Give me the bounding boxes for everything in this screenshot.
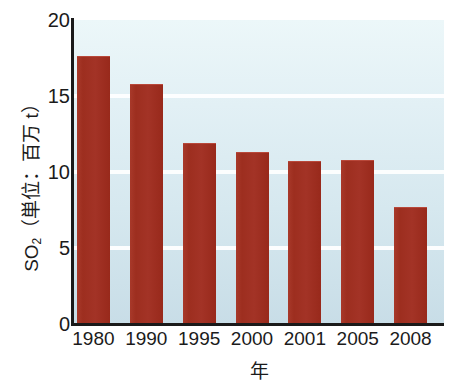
y-axis-tick-label: 15 xyxy=(26,86,70,106)
x-axis-tick-label: 1980 xyxy=(67,329,119,350)
x-axis-title: 年 xyxy=(74,356,444,383)
bar xyxy=(394,207,427,324)
x-axis-tick-label: 1995 xyxy=(173,329,225,350)
y-axis-tick-label: 5 xyxy=(26,238,70,258)
bar xyxy=(130,84,163,324)
x-axis-tick-label: 2000 xyxy=(226,329,278,350)
bar xyxy=(77,56,110,324)
bar xyxy=(183,143,216,324)
x-axis-line xyxy=(71,323,444,326)
plot-area xyxy=(74,20,444,324)
bar xyxy=(341,160,374,324)
bar-chart: SO2（単位：百万 t） 20151050 198019901995200020… xyxy=(0,0,456,386)
x-axis-tick-label: 2008 xyxy=(385,329,437,350)
y-axis-tick-label: 10 xyxy=(26,162,70,182)
x-axis-tick-label: 1990 xyxy=(120,329,172,350)
y-axis-tick-label: 0 xyxy=(26,314,70,334)
bar xyxy=(288,161,321,324)
x-axis-tick-labels: 1980199019952000200120052008 xyxy=(74,329,444,357)
bar xyxy=(236,152,269,324)
y-axis-tick-labels: 20151050 xyxy=(20,0,70,386)
y-axis-tick-label: 20 xyxy=(26,10,70,30)
x-axis-tick-label: 2005 xyxy=(332,329,384,350)
x-axis-tick-label: 2001 xyxy=(279,329,331,350)
